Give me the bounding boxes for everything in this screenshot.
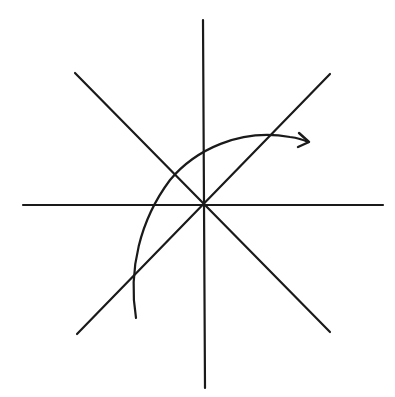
rotation-diagram (0, 0, 395, 397)
rotation-arc (134, 135, 308, 318)
